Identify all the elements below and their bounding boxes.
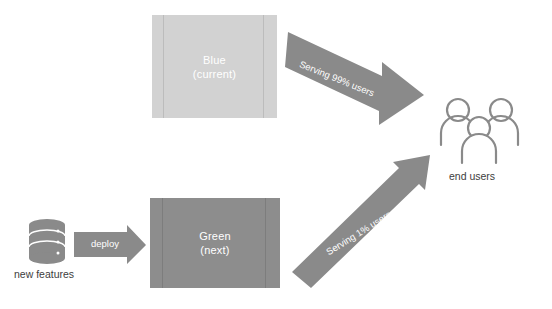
blue-traffic-arrow — [285, 32, 424, 125]
green-box-name: Green — [199, 229, 231, 243]
environment-box-blue[interactable]: Blue (current) — [152, 15, 277, 118]
environment-box-green[interactable]: Green (next) — [150, 198, 280, 288]
database-icon — [29, 219, 65, 264]
new-features-label: new features — [14, 268, 74, 280]
blue-box-state: (current) — [193, 67, 236, 81]
end-users-label: end users — [449, 170, 495, 182]
green-box-label: Green (next) — [199, 229, 231, 257]
blue-box-label: Blue (current) — [193, 53, 236, 81]
green-traffic-arrow — [292, 155, 430, 288]
deploy-arrow-label: deploy — [91, 238, 119, 249]
green-box-divider-left — [162, 198, 163, 288]
blue-box-name: Blue — [193, 53, 236, 67]
blue-box-divider-right — [263, 15, 264, 118]
green-box-divider-right — [265, 198, 266, 288]
blue-box-divider-left — [163, 15, 164, 118]
users-group-icon — [441, 99, 518, 163]
green-box-state: (next) — [199, 243, 231, 257]
